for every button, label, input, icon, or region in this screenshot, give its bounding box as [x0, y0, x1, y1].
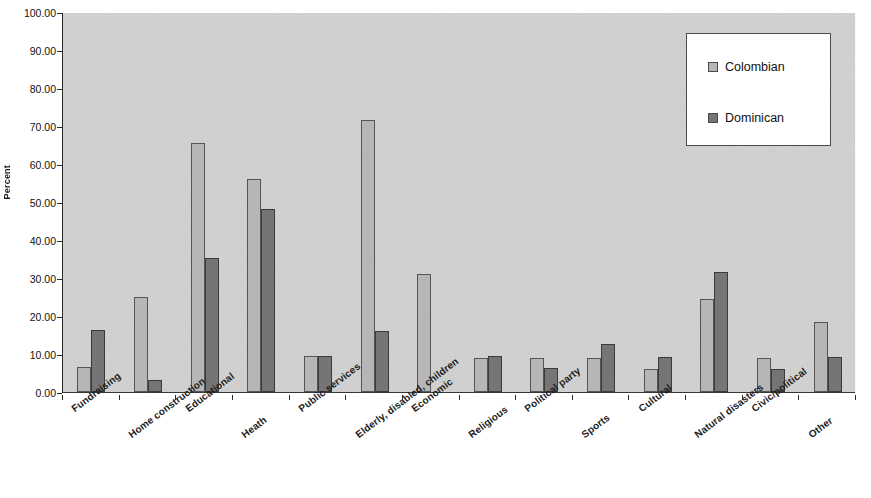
bar	[375, 331, 389, 392]
x-axis-tick-mark	[459, 395, 460, 400]
x-axis-tick-mark	[232, 395, 233, 400]
y-axis-tick-label: 0.00	[10, 387, 56, 399]
bar-group	[346, 13, 403, 392]
bar	[134, 297, 148, 392]
bar	[700, 299, 714, 392]
bar	[247, 179, 261, 392]
bar	[361, 120, 375, 392]
x-axis-tick-label: Heath	[240, 414, 269, 440]
y-axis-tick-label: 50.00	[10, 197, 56, 209]
bar	[601, 344, 615, 392]
bar	[587, 358, 601, 392]
x-axis-tick-mark	[855, 395, 856, 400]
bar	[148, 380, 162, 392]
y-axis-tick-label: 10.00	[10, 349, 56, 361]
x-axis-tick-mark	[119, 395, 120, 400]
bar-group	[573, 13, 630, 392]
bar	[644, 369, 658, 392]
legend-swatch-icon	[708, 113, 718, 123]
bar-group	[629, 13, 686, 392]
x-axis-tick-mark	[628, 395, 629, 400]
x-axis-tick-mark	[572, 395, 573, 400]
bar	[488, 356, 502, 392]
bar	[205, 258, 219, 392]
y-axis-tick-label: 90.00	[10, 45, 56, 57]
y-axis-tick-label: 20.00	[10, 311, 56, 323]
x-axis-tick-mark	[685, 395, 686, 400]
bar-group	[233, 13, 290, 392]
chart-legend: ColombianDominican	[686, 33, 831, 146]
x-axis-tick-mark	[289, 395, 290, 400]
bar	[828, 357, 842, 392]
bar-chart: Percent 100.0090.0080.0070.0060.0050.004…	[0, 0, 871, 498]
bar	[77, 367, 91, 392]
bar	[814, 322, 828, 392]
bar	[191, 143, 205, 392]
legend-label: Colombian	[725, 60, 785, 74]
y-axis-tick-label: 70.00	[10, 121, 56, 133]
y-axis-tick-label: 60.00	[10, 159, 56, 171]
legend-entry: Colombian	[708, 60, 785, 74]
bar	[261, 209, 275, 392]
bar-group	[460, 13, 517, 392]
bar	[474, 358, 488, 392]
x-axis-tick-label: Sports	[579, 412, 611, 440]
x-axis-tick-mark	[515, 395, 516, 400]
bar	[530, 358, 544, 392]
bar-group	[516, 13, 573, 392]
bar	[304, 356, 318, 392]
bar-group	[176, 13, 233, 392]
bar-group	[120, 13, 177, 392]
x-axis-tick-label: Other	[806, 415, 834, 440]
legend-label: Dominican	[725, 111, 784, 125]
y-axis-tick-label: 40.00	[10, 235, 56, 247]
y-axis-tick-label: 30.00	[10, 273, 56, 285]
x-axis-tick-label: Religious	[466, 404, 509, 440]
y-axis-tick-label: 100.00	[10, 7, 56, 19]
legend-entry: Dominican	[708, 111, 784, 125]
bar-group	[63, 13, 120, 392]
x-axis-tick-mark	[62, 395, 63, 400]
x-axis-tick-mark	[345, 395, 346, 400]
bar	[714, 272, 728, 392]
y-axis-tick-mark	[57, 393, 62, 394]
bar-group	[403, 13, 460, 392]
y-axis-tick-label: 80.00	[10, 83, 56, 95]
x-axis-tick-mark	[798, 395, 799, 400]
bar-group	[290, 13, 347, 392]
legend-swatch-icon	[708, 62, 718, 72]
